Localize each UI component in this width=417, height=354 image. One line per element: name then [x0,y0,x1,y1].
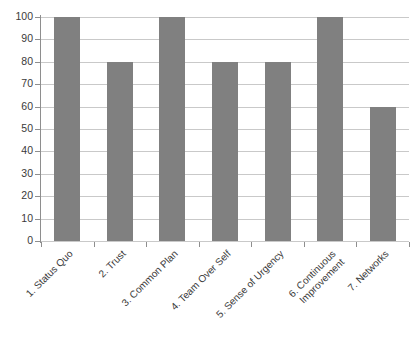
x-axis-category-label: 2. Trust [96,248,128,280]
x-axis-tick-mark [409,242,410,247]
gridline [41,39,409,40]
y-axis-tick-labels: 0102030405060708090100 [0,0,33,260]
x-axis-category-labels: 1. Status Quo2. Trust3. Common Plan4. Te… [41,248,409,354]
bar[interactable] [370,107,396,241]
y-axis-tick-mark [35,17,40,18]
y-axis-tick-label: 40 [5,145,33,156]
y-axis-tick-mark [35,62,40,63]
gridline [41,17,409,18]
x-axis-tick-mark [94,242,95,247]
y-axis-tick-mark [35,196,40,197]
y-axis-tick-label: 70 [5,78,33,89]
y-axis-tick-label: 100 [5,11,33,22]
y-axis-tick-mark [35,107,40,108]
x-axis-tick-mark [146,242,147,247]
y-axis-tick-mark [35,174,40,175]
y-axis-tick-mark [35,219,40,220]
bar[interactable] [54,17,80,241]
plot-area [41,17,409,241]
x-axis-tick-mark [251,242,252,247]
y-axis-tick-mark [35,84,40,85]
bar[interactable] [159,17,185,241]
bar[interactable] [265,62,291,241]
bar-chart: 0102030405060708090100 1. Status Quo2. T… [0,0,417,354]
x-axis-category-label: 7. Networks [345,248,390,293]
y-axis-tick-label: 90 [5,33,33,44]
y-axis-tick-label: 50 [5,123,33,134]
x-axis-label-line: 3. Common Plan [120,248,180,308]
y-axis-tick-label: 0 [5,235,33,246]
bar[interactable] [107,62,133,241]
y-axis-tick-mark [35,151,40,152]
y-axis-tick-label: 80 [5,56,33,67]
x-axis-category-label: 6. ContinuousImprovement [286,248,346,308]
x-axis-tick-mark [356,242,357,247]
y-axis-tick-mark [35,241,40,242]
x-axis-tick-mark [304,242,305,247]
y-axis-tick-mark [35,129,40,130]
y-axis-tick-mark [35,39,40,40]
y-axis-tick-label: 60 [5,101,33,112]
x-axis-tick-mark [41,242,42,247]
x-axis-tick-mark [199,242,200,247]
x-axis-label-line: 7. Networks [345,248,390,293]
bar[interactable] [212,62,238,241]
y-axis-tick-label: 20 [5,190,33,201]
x-axis-label-line: 2. Trust [96,248,127,279]
bar[interactable] [317,17,343,241]
y-axis-tick-label: 10 [5,213,33,224]
gridline [41,241,409,242]
y-axis-tick-label: 30 [5,168,33,179]
